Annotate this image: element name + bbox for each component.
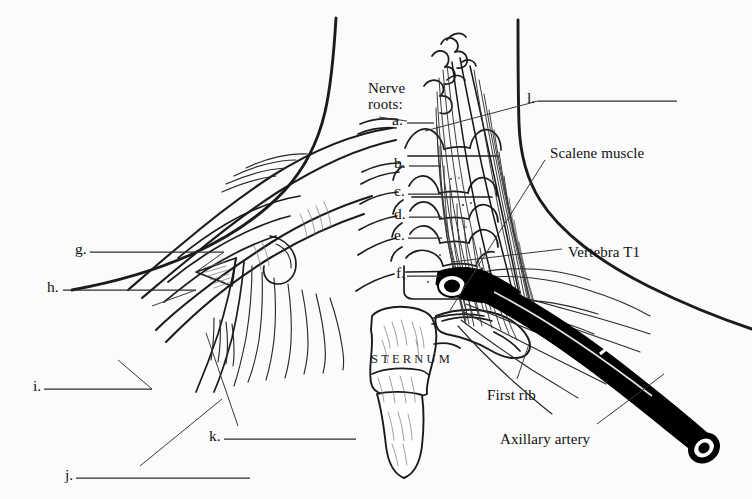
leader-i bbox=[118, 360, 152, 389]
blank-letter-i[interactable]: i. bbox=[33, 377, 41, 395]
blank-letter-b[interactable]: b. bbox=[394, 154, 406, 172]
blank-letter-l[interactable]: l. bbox=[527, 89, 535, 107]
label-scalene-muscle: Scalene muscle bbox=[550, 145, 644, 162]
blank-letter-a[interactable]: a. bbox=[392, 111, 403, 129]
blank-letter-e[interactable]: e. bbox=[394, 226, 405, 244]
anatomy-figure-page: .ol { fill:none; stroke:#1b1b1b; stroke-… bbox=[0, 0, 752, 499]
blank-letter-c[interactable]: c. bbox=[394, 182, 405, 200]
blank-letter-g[interactable]: g. bbox=[75, 240, 87, 258]
leader-h bbox=[152, 290, 196, 306]
body-outline bbox=[72, 18, 752, 329]
label-vertebra-t1: Vertebra T1 bbox=[568, 244, 640, 261]
leader-k bbox=[206, 333, 238, 426]
nerve-roots-heading: Nerve roots: bbox=[368, 80, 405, 112]
blank-letter-f[interactable]: f. bbox=[396, 264, 405, 282]
label-first-rib: First rib bbox=[487, 387, 536, 404]
label-sternum: STERNUM bbox=[371, 352, 453, 366]
blank-letter-j[interactable]: j. bbox=[65, 466, 73, 484]
nerve-roots-heading-line2: roots: bbox=[368, 96, 405, 112]
vertebral-column bbox=[391, 33, 502, 299]
brachial-plexus-left bbox=[128, 128, 396, 392]
blank-letter-d[interactable]: d. bbox=[394, 205, 406, 223]
nerve-roots-heading-line1: Nerve bbox=[368, 80, 405, 96]
label-axillary-artery: Axillary artery bbox=[500, 431, 590, 448]
blank-letter-h[interactable]: h. bbox=[47, 278, 59, 296]
blank-letter-k[interactable]: k. bbox=[209, 427, 221, 445]
